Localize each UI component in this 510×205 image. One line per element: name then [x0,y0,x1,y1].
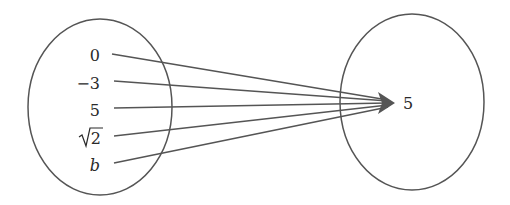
arrow-b-to-5 [114,107,388,163]
mapping-diagram: 0 −3 5 2 b 5 [0,0,510,205]
arrow-sqrt2-to-5 [114,105,388,136]
radicand: 2 [91,129,101,148]
arrow-5-to-5 [114,103,388,108]
domain-element-neg3: −3 [76,74,100,93]
domain-element-sqrt2: 2 [79,128,103,148]
mapping-arrows [112,54,388,163]
arrow-neg3-to-5 [114,81,388,101]
arrow-0-to-5 [112,54,388,100]
domain-element-b: b [90,156,100,175]
codomain-element-5: 5 [403,94,413,113]
domain-element-5: 5 [90,101,100,120]
domain-element-0: 0 [90,46,100,65]
